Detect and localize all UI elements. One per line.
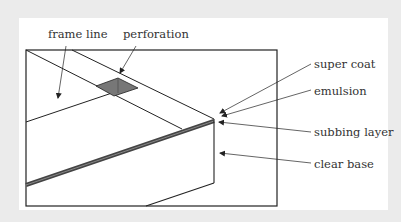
frame-line-edge <box>26 93 112 122</box>
super-coat-leader <box>220 64 311 113</box>
layer-band-highlight <box>26 121 214 185</box>
film-bottom-edge <box>146 183 214 206</box>
perforation-shape <box>96 78 138 96</box>
label-perforation: perforation <box>123 27 189 41</box>
clear-base-leader <box>220 153 311 163</box>
subbing-layer-leader <box>219 122 311 132</box>
label-emulsion: emulsion <box>314 84 367 98</box>
frame-rectangle <box>26 50 277 206</box>
label-clear-base: clear base <box>314 157 374 171</box>
label-super-coat: super coat <box>314 57 376 71</box>
film-diagram: frame line perforation super coat emulsi… <box>0 0 401 222</box>
emulsion-leader <box>222 90 311 116</box>
label-subbing-layer: subbing layer <box>314 125 394 139</box>
frame-line-leader <box>58 46 66 98</box>
label-frame-line: frame line <box>48 27 108 41</box>
